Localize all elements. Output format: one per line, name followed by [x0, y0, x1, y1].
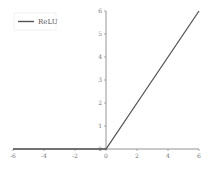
x-tick-label: -2: [72, 152, 78, 159]
x-tick-label: -6: [10, 152, 16, 159]
relu-chart: ReLU -6 -4 -2 0 2 4 6 0 1 2 3 4 5: [0, 0, 212, 171]
y-tick-label: 3: [98, 76, 102, 83]
x-tick-labels: -6 -4 -2 0 2 4 6: [10, 152, 201, 159]
y-tick-label: 4: [98, 53, 102, 60]
x-tick-label: 2: [135, 152, 139, 159]
y-tick-label: 5: [98, 30, 102, 37]
y-tick-label: 1: [98, 122, 102, 129]
legend-label: ReLU: [38, 18, 58, 26]
x-tick-label: 4: [166, 152, 170, 159]
x-tick-label: 0: [104, 152, 108, 159]
x-tick-label: -4: [41, 152, 47, 159]
x-tick-label: 6: [197, 152, 201, 159]
y-tick-labels: 0 1 2 3 4 5 6: [98, 7, 102, 152]
y-tick-label: 2: [98, 99, 102, 106]
y-tick-label: 6: [98, 7, 102, 14]
